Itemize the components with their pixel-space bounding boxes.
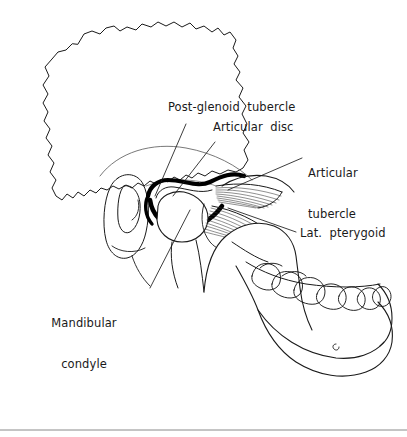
mandible-ramus: [204, 223, 312, 330]
label-lat-pterygoid: Lat. pterygoid: [300, 227, 386, 241]
lateral-pterygoid-superior: [216, 184, 282, 208]
mental-foramen: [333, 344, 339, 350]
label-articular-tubercle-line2: tubercle: [308, 208, 358, 222]
label-post-glenoid-tubercle: Post-glenoid tubercle: [168, 101, 295, 115]
external-auditory-meatus: [118, 186, 140, 233]
condyle-neck-post: [196, 240, 204, 292]
mandibular-condyle-head: [157, 192, 208, 242]
label-articular-tubercle: Articular tubercle: [308, 140, 358, 235]
label-mandibular-condyle-line2: condyle: [24, 358, 144, 372]
label-articular-tubercle-line1: Articular: [308, 167, 358, 181]
styloid-process: [132, 256, 150, 286]
tympanic-plate: [104, 175, 148, 259]
meatus-inner-hook: [132, 200, 139, 220]
condyle-neck: [171, 242, 178, 288]
chin-symphysis: [378, 284, 392, 346]
label-mandibular-condyle-line1: Mandibular: [24, 317, 144, 331]
label-articular-disc: Articular disc: [213, 121, 294, 135]
label-mandibular-condyle: Mandibular condyle: [24, 290, 144, 385]
